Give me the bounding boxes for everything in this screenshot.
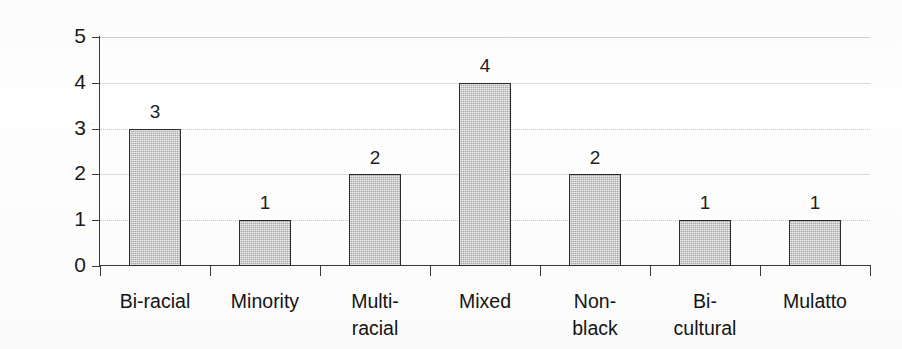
bar-value-bi-cultural: 1 [679,192,731,214]
bar-mixed[interactable] [459,83,511,266]
bar-non-black[interactable] [569,174,621,266]
bar-bi-racial[interactable] [129,129,181,266]
x-tick-mark-0 [100,266,101,276]
x-tick-mark-3 [430,266,431,276]
y-tick-mark-2 [92,174,100,175]
x-tick-mark-6 [760,266,761,276]
x-tick-mark-2 [320,266,321,276]
y-tick-label-0: 0 [44,253,86,277]
bar-multi-racial[interactable] [349,174,401,266]
x-tick-mark-5 [650,266,651,276]
gridline-5 [100,37,870,38]
y-tick-mark-3 [92,129,100,130]
x-tick-mark-4 [540,266,541,276]
bar-value-non-black: 2 [569,147,621,169]
bar-value-minority: 1 [239,192,291,214]
y-tick-mark-5 [92,37,100,38]
y-tick-mark-1 [92,220,100,221]
y-axis-line [99,36,100,267]
bar-mulatto[interactable] [789,220,841,266]
bar-chart: Number of Studies 5 4 3 2 1 0 [0,0,902,349]
y-tick-label-3: 3 [44,116,86,140]
bar-value-multi-racial: 2 [349,147,401,169]
y-tick-label-5: 5 [44,24,86,48]
bar-value-mixed: 4 [459,55,511,77]
x-tick-mark-1 [210,266,211,276]
y-tick-label-2: 2 [44,161,86,185]
y-tick-label-1: 1 [44,207,86,231]
x-category-label-mulatto: Mulatto [750,288,880,315]
x-tick-mark-7 [870,266,871,276]
bar-value-bi-racial: 3 [129,101,181,123]
y-tick-label-4: 4 [44,70,86,94]
bar-value-mulatto: 1 [789,192,841,214]
y-tick-mark-4 [92,83,100,84]
bar-bi-cultural[interactable] [679,220,731,266]
y-tick-mark-0 [92,266,100,267]
bar-minority[interactable] [239,220,291,266]
